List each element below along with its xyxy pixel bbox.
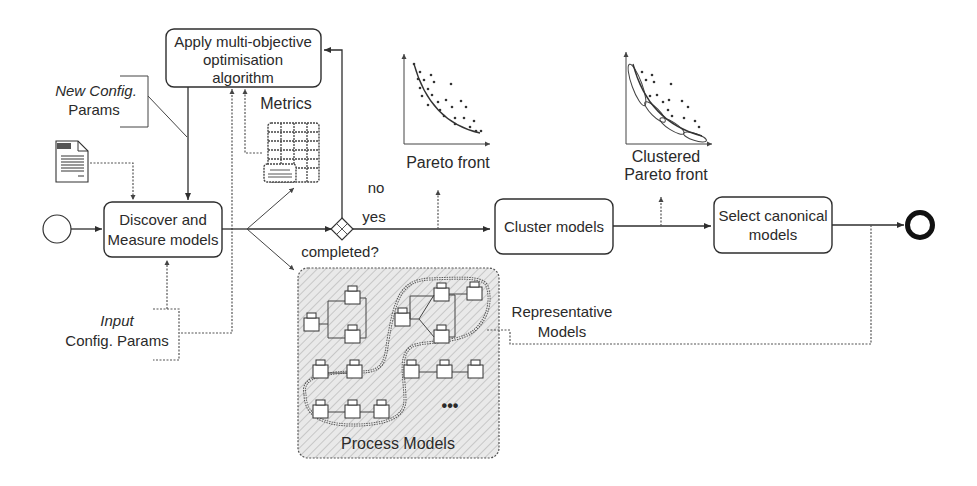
task-optimise-label-1: Apply multi-objective — [174, 33, 312, 50]
process-diagram: Discover and Measure models Apply multi-… — [0, 0, 977, 486]
clustered-pareto-chart — [625, 52, 712, 144]
pareto-front-chart — [404, 54, 490, 144]
task-select-label-1: Select canonical — [718, 207, 827, 224]
task-optimise-label-3: algorithm — [212, 69, 274, 86]
gateway-question-label: completed? — [301, 243, 379, 260]
start-event[interactable] — [43, 215, 71, 243]
task-apply-optimisation[interactable]: Apply multi-objective optimisation algor… — [166, 29, 321, 87]
flow-to-metrics — [247, 188, 294, 229]
task-cluster-models[interactable]: Cluster models — [495, 199, 613, 254]
gateway-no-label: no — [368, 179, 385, 196]
end-event[interactable] — [908, 213, 933, 238]
representative-label-2: Models — [538, 323, 586, 340]
task-discover-label-2: Measure models — [108, 231, 219, 248]
clustered-pareto-label-2: Pareto front — [624, 166, 708, 183]
new-config-label-2: Params — [68, 101, 120, 118]
pareto-frontier-curve — [414, 64, 480, 133]
metrics-table-icon[interactable] — [264, 123, 319, 182]
annotation-input-config-params: Input Config. Params — [65, 309, 179, 360]
document-icon[interactable] — [56, 141, 88, 182]
input-config-label-2: Config. Params — [65, 332, 168, 349]
cluster-ellipses — [625, 63, 708, 144]
input-config-label-1: Input — [100, 312, 134, 329]
task-discover-measure[interactable]: Discover and Measure models — [104, 202, 222, 257]
process-models-label: Process Models — [341, 435, 455, 452]
gateway-yes-label: yes — [362, 208, 385, 225]
task-select-canonical[interactable]: Select canonical models — [714, 197, 832, 253]
process-model-5 — [313, 400, 389, 418]
metrics-label: Metrics — [260, 95, 312, 112]
flow-log-to-discover — [90, 163, 133, 200]
representative-label-1: Representative — [512, 303, 613, 320]
task-select-label-2: models — [749, 226, 797, 243]
pareto-points — [413, 63, 483, 133]
clustered-pareto-label-1: Clustered — [632, 148, 700, 165]
annotation-new-config-params: New Config. Params — [55, 76, 187, 137]
pareto-front-label: Pareto front — [406, 154, 490, 171]
flow-gateway-no-to-optimise — [324, 50, 342, 218]
task-discover-label-1: Discover and — [119, 211, 207, 228]
task-cluster-label: Cluster models — [504, 218, 604, 235]
process-model-4 — [404, 360, 483, 378]
more-models-ellipsis: ••• — [442, 397, 459, 414]
new-config-label-1: New Config. — [55, 82, 137, 99]
clustered-points — [641, 71, 701, 129]
process-models-container[interactable]: ••• Process Models — [298, 268, 499, 458]
clustered-frontier-curve — [633, 64, 702, 136]
task-optimise-label-2: optimisation — [203, 51, 283, 68]
flow-to-process-models — [247, 229, 294, 270]
gateway-completed[interactable] — [331, 218, 353, 240]
